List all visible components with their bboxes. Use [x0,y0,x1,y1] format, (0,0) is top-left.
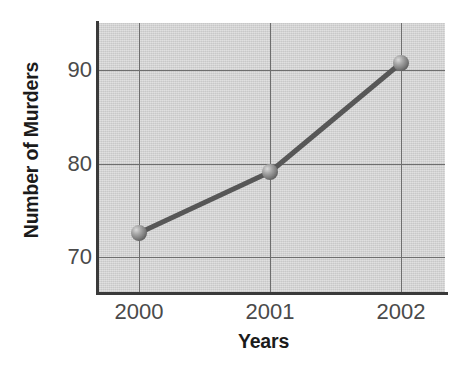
plot-area [98,23,445,293]
series-line-number-of-murders [139,63,401,233]
line-chart-figure: Number of Murders 90 80 70 [0,0,471,370]
y-tick-label-70: 70 [46,246,92,268]
x-axis-line [96,292,448,295]
data-point-2000 [131,225,147,241]
y-tick-label-80: 80 [46,153,92,175]
data-point-2001 [262,164,278,180]
x-tick-label-2000: 2000 [94,299,184,325]
y-axis-line [96,21,99,295]
y-axis-tick-labels: 90 80 70 [44,0,92,370]
y-axis-title: Number of Murders [16,15,46,285]
series-layer [98,23,445,293]
y-tick-label-90: 90 [46,59,92,81]
x-tick-label-2001: 2001 [225,299,315,325]
x-axis-title: Years [238,330,289,353]
x-tick-label-2002: 2002 [356,299,446,325]
x-axis-title-wrapper: Years [0,330,471,353]
data-point-2002 [393,55,409,71]
